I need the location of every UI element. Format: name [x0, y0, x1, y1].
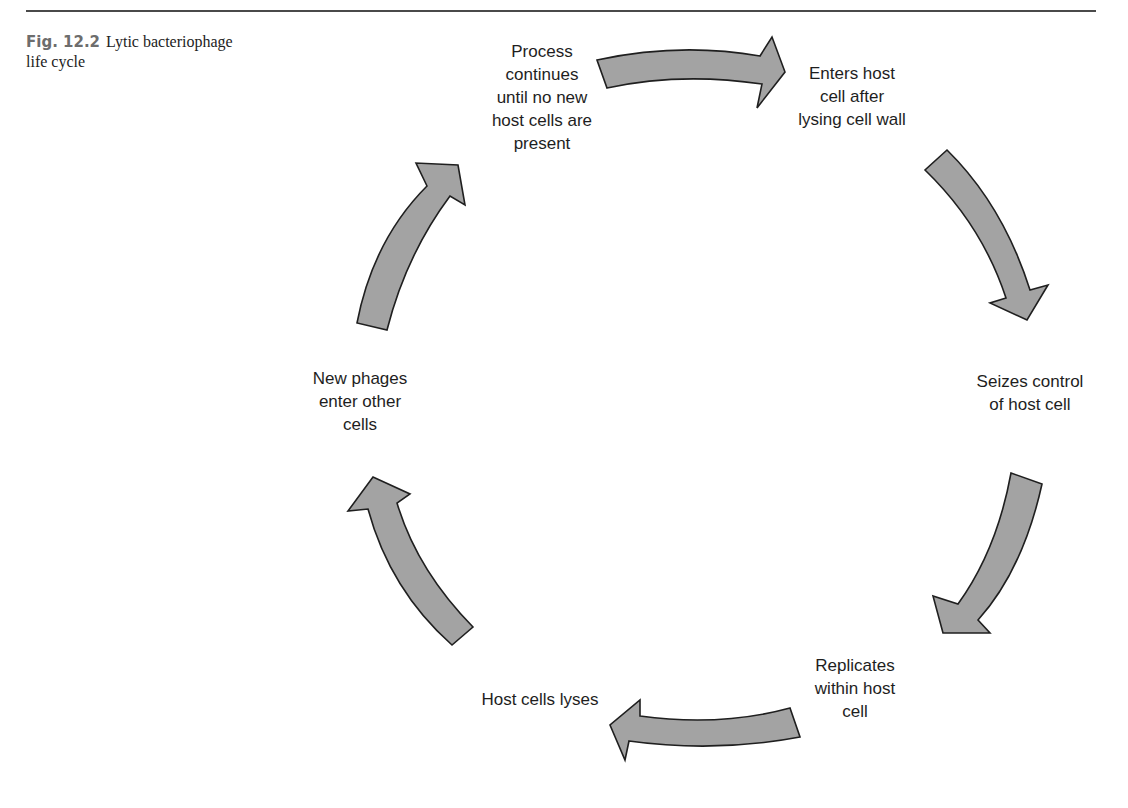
curved-arrow-right-icon	[597, 37, 785, 108]
curved-arrow-down-left-icon	[933, 473, 1042, 633]
step-host-cells-lyses: Host cells lyses	[460, 688, 620, 711]
step-new-phages: New phages enter other cells	[290, 367, 430, 436]
curved-arrow-left-icon	[610, 700, 800, 760]
step-seizes-control: Seizes control of host cell	[955, 370, 1105, 416]
step-replicates: Replicates within host cell	[800, 654, 910, 723]
curved-arrow-up-right-icon	[357, 163, 465, 330]
step-process-continues: Process continues until no new host cell…	[472, 40, 612, 155]
curved-arrow-up-left-icon	[348, 477, 473, 645]
step-enters-host-cell: Enters host cell after lysing cell wall	[782, 62, 922, 131]
curved-arrow-down-icon	[925, 150, 1048, 320]
